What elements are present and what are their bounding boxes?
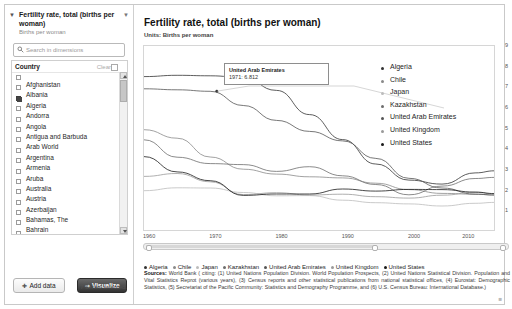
country-facet: Country Clear AfghanistanAlbaniaAlgeriaA…	[11, 60, 128, 235]
time-range-thumb[interactable]	[146, 245, 376, 248]
checkbox-icon[interactable]	[16, 137, 21, 142]
country-list[interactable]: AfghanistanAlbaniaAlgeriaAndorraAngolaAn…	[12, 72, 120, 234]
x-axis-tick-label: 2010	[462, 233, 474, 239]
legend-item[interactable]: Japan	[379, 88, 456, 101]
y-axis-tick-label: 4	[505, 145, 508, 151]
checkbox-icon[interactable]	[16, 200, 21, 205]
scroll-down-button[interactable]	[120, 227, 127, 234]
legend-swatch-icon	[173, 266, 176, 269]
clear-icon[interactable]	[111, 64, 118, 71]
legend-swatch-icon	[381, 130, 384, 133]
sidebar: ▼ ▼ Fertility rate, total (births per wo…	[5, 5, 134, 304]
checkbox-icon[interactable]	[16, 96, 21, 101]
legend-swatch-icon	[381, 117, 384, 120]
main-panel: Fertility rate, total (births per woman)…	[134, 5, 504, 304]
clear-link[interactable]: Clear	[97, 64, 111, 70]
range-handle-mid[interactable]	[372, 245, 378, 251]
list-item[interactable]: Australia	[12, 177, 120, 187]
y-axis-tick-label: 5	[505, 125, 508, 131]
legend-swatch-icon	[264, 266, 267, 269]
list-item[interactable]: Angola	[12, 115, 120, 125]
caret-down-icon-right[interactable]: ▼	[123, 12, 129, 18]
tooltip-series: United Arab Emirates	[229, 67, 324, 74]
legend-swatch-icon	[381, 105, 384, 108]
chart-units: Units: Births per woman	[144, 32, 213, 38]
checkbox-icon[interactable]	[16, 169, 21, 174]
chart-tooltip: United Arab Emirates 1971: 6.812	[224, 63, 329, 85]
add-data-button[interactable]: ✚Add data	[13, 278, 65, 293]
checkbox-icon[interactable]	[16, 75, 21, 80]
list-item[interactable]: Antigua and Barbuda	[12, 125, 120, 135]
dimension-header[interactable]: ▼ ▼ Fertility rate, total (births per wo…	[5, 5, 133, 40]
y-axis-line	[494, 45, 495, 231]
checkbox-icon[interactable]	[16, 220, 21, 225]
time-range-scrollbar[interactable]	[143, 243, 509, 250]
x-axis-tick-label: 1970	[209, 233, 221, 239]
legend-item[interactable]: United States	[379, 139, 456, 152]
dimension-title: Fertility rate, total (births per woman)	[19, 11, 119, 28]
legend-swatch-icon	[381, 92, 384, 95]
list-item[interactable]: Andorra	[12, 104, 120, 114]
series-line	[144, 157, 495, 196]
list-item[interactable]: Argentina	[12, 146, 120, 156]
legend-item[interactable]: Algeria	[379, 63, 456, 76]
bottom-scroll-indicator[interactable]: ■	[498, 296, 502, 302]
legend-item[interactable]: United Kingdom	[379, 126, 456, 139]
facet-scrollbar[interactable]	[119, 72, 127, 234]
legend-item[interactable]: Kazakhstan	[379, 101, 456, 114]
legend-label: Algeria	[390, 63, 412, 70]
list-item[interactable]: Arab World	[12, 135, 120, 145]
tooltip-value: 1971: 6.812	[229, 74, 324, 81]
legend-item[interactable]: United Arab Emirates	[379, 113, 456, 126]
y-axis: 123456789	[494, 45, 512, 231]
chart-legend: AlgeriaChileJapanKazakhstanUnited Arab E…	[379, 63, 456, 151]
range-handle-right[interactable]	[500, 245, 506, 251]
checkbox-icon[interactable]	[16, 117, 21, 122]
list-item[interactable]: Afghanistan	[12, 73, 120, 83]
list-item[interactable]: Azerbaijan	[12, 198, 120, 208]
y-axis-tick-label: 3	[505, 166, 508, 172]
x-axis-tick-label: 2000	[408, 233, 420, 239]
legend-label: Kazakhstan	[390, 101, 427, 108]
legend-swatch-icon	[381, 67, 384, 70]
y-axis-tick-label: 2	[505, 187, 508, 193]
legend-swatch-icon	[384, 266, 387, 269]
legend-swatch-icon	[223, 266, 226, 269]
checkbox-icon[interactable]	[16, 127, 21, 132]
add-data-label: Add data	[29, 282, 55, 289]
sources-label: Sources:	[144, 270, 167, 276]
search-input[interactable]: Search in dimensions	[13, 43, 125, 57]
list-item[interactable]: Armenia	[12, 156, 120, 166]
range-handle-left[interactable]	[146, 245, 152, 251]
series-selected-note: 7 series selected.	[80, 284, 127, 290]
list-item[interactable]: Bahamas, The	[12, 208, 120, 218]
list-item[interactable]: Bangladesh	[12, 229, 120, 234]
scroll-thumb[interactable]	[120, 80, 127, 102]
legend-swatch-icon	[144, 266, 147, 269]
legend-label: United Kingdom	[390, 126, 440, 133]
checkbox-icon[interactable]	[16, 85, 21, 90]
checkbox-icon[interactable]	[16, 231, 21, 234]
search-icon	[17, 46, 24, 53]
list-item[interactable]: Aruba	[12, 167, 120, 177]
checkbox-icon[interactable]	[16, 179, 21, 184]
x-axis-tick-label: 1990	[342, 233, 354, 239]
scroll-up-button[interactable]	[120, 72, 127, 79]
list-item[interactable]: Bahrain	[12, 218, 120, 228]
checkbox-icon[interactable]	[16, 210, 21, 215]
checkbox-icon[interactable]	[16, 189, 21, 194]
legend-label: Chile	[390, 76, 406, 83]
sources-text: Sources: World Bank ( citing: (1) United…	[144, 270, 510, 292]
checkbox-icon[interactable]	[16, 158, 21, 163]
legend-item[interactable]: Chile	[379, 76, 456, 89]
legend-label: Japan	[390, 88, 409, 95]
caret-down-icon[interactable]: ▼	[9, 12, 15, 18]
list-item[interactable]: Albania	[12, 83, 120, 93]
plus-icon: ✚	[22, 283, 27, 289]
sources-body: World Bank ( citing: (1) United Nations …	[144, 270, 510, 290]
facet-title: Country	[15, 63, 40, 70]
checkbox-icon[interactable]	[16, 106, 21, 111]
checkbox-icon[interactable]	[16, 148, 21, 153]
list-item[interactable]: Algeria	[12, 94, 120, 104]
list-item[interactable]: Austria	[12, 187, 120, 197]
